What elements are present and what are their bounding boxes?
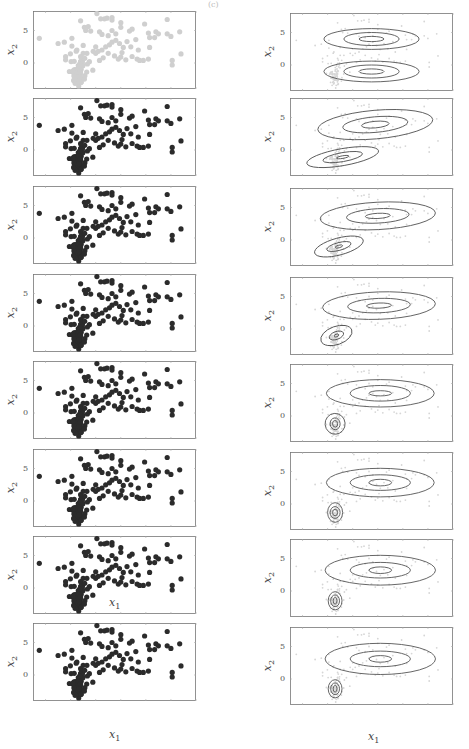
- y-tick-label: 0: [23, 408, 28, 417]
- contour-plot-8: [290, 627, 453, 705]
- scatter-points: [37, 98, 184, 176]
- y-axis-label: x2: [4, 307, 19, 318]
- y-tick-label: 0: [23, 670, 28, 679]
- contour-panel-2: 50x2: [290, 98, 453, 176]
- responsibility-panel-2: 50x2: [33, 98, 196, 176]
- gaussian-contour-1: [326, 380, 434, 407]
- y-axis-label: x2: [261, 46, 276, 57]
- y-axis-label: x2: [261, 131, 276, 142]
- gaussian-contour-1: [324, 29, 419, 50]
- y-tick-label: 5: [23, 376, 28, 385]
- faint-points: [295, 279, 439, 353]
- y-tick-label: 0: [23, 58, 28, 67]
- scatter-points: [37, 361, 184, 439]
- y-tick-label: 0: [280, 411, 285, 420]
- axes-frame: [291, 14, 453, 91]
- y-tick-label: 5: [23, 201, 28, 210]
- axes-frame: [34, 624, 196, 701]
- y-tick-label: 5: [280, 467, 285, 476]
- axes-frame: [291, 365, 453, 442]
- contour-plot-6: [290, 452, 453, 530]
- responsibility-panel-4: 50x2: [33, 274, 196, 352]
- scatter-points: [37, 11, 184, 89]
- y-tick-label: 5: [280, 379, 285, 388]
- contour-panel-1: 50x2: [290, 13, 453, 91]
- axes-frame: [34, 450, 196, 527]
- responsibility-plot-1: [33, 11, 196, 89]
- gaussian-contour-1: [325, 555, 435, 585]
- y-axis-label: x2: [261, 572, 276, 583]
- y-tick-label: 5: [280, 203, 285, 212]
- responsibility-plot-3: [33, 186, 196, 264]
- y-axis-label: x2: [4, 131, 19, 142]
- y-tick-label: 0: [280, 674, 285, 683]
- axes-frame: [34, 187, 196, 264]
- y-tick-label: 5: [23, 551, 28, 560]
- contour-plot-3: [290, 188, 453, 266]
- faint-points: [295, 454, 439, 528]
- contour-plot-1: [290, 13, 453, 91]
- axes-frame: [291, 278, 453, 355]
- responsibility-panel-3: 50x2: [33, 186, 196, 264]
- gaussian-contour-2: [305, 142, 380, 171]
- responsibility-panel-8: 50x2: [33, 623, 196, 701]
- contour-panel-3: 50x2: [290, 188, 453, 266]
- y-tick-label: 5: [280, 113, 285, 122]
- contour-plot-5: [290, 364, 453, 442]
- contour-panel-7: 50x2: [290, 539, 453, 617]
- x-axis-label: x1: [368, 730, 379, 745]
- responsibility-plot-2: [33, 98, 196, 176]
- y-axis-label: x2: [4, 394, 19, 405]
- gaussian-contour-1: [326, 468, 434, 497]
- y-axis-label: x2: [4, 44, 19, 55]
- responsibility-plot-4: [33, 274, 196, 352]
- gaussian-contour-1: [325, 643, 435, 674]
- x-axis-label: x1: [109, 596, 120, 611]
- contour-panel-5: 50x2: [290, 364, 453, 442]
- contour-panel-4: 50x2: [290, 277, 453, 355]
- gaussian-contour-1: [322, 290, 436, 321]
- y-axis-label: x2: [261, 221, 276, 232]
- x-axis-label: x1: [109, 728, 120, 743]
- y-tick-label: 0: [280, 324, 285, 333]
- y-tick-label: 0: [23, 496, 28, 505]
- y-axis-label: x2: [261, 660, 276, 671]
- faint-points: [295, 190, 439, 264]
- responsibility-plot-5: [33, 361, 196, 439]
- y-tick-label: 0: [280, 145, 285, 154]
- y-tick-label: 0: [280, 499, 285, 508]
- y-tick-label: 5: [280, 28, 285, 37]
- y-tick-label: 5: [23, 464, 28, 473]
- axes-frame: [34, 99, 196, 176]
- responsibility-panel-5: 50x2: [33, 361, 196, 439]
- y-axis-label: x2: [261, 397, 276, 408]
- figure-top-label: (c): [208, 0, 219, 9]
- axes-frame: [291, 453, 453, 530]
- responsibility-panel-6: 50x2: [33, 449, 196, 527]
- y-tick-label: 0: [280, 235, 285, 244]
- responsibility-plot-6: [33, 449, 196, 527]
- axes-frame: [34, 12, 196, 89]
- y-axis-label: x2: [4, 219, 19, 230]
- y-tick-label: 5: [23, 113, 28, 122]
- y-tick-label: 0: [280, 60, 285, 69]
- y-tick-label: 5: [280, 642, 285, 651]
- contour-plot-7: [290, 539, 453, 617]
- y-axis-label: x2: [4, 482, 19, 493]
- faint-points: [295, 541, 439, 615]
- y-tick-label: 5: [280, 292, 285, 301]
- axes-frame: [34, 362, 196, 439]
- y-tick-label: 5: [23, 26, 28, 35]
- y-tick-label: 0: [280, 586, 285, 595]
- responsibility-plot-8: [33, 623, 196, 701]
- y-tick-label: 0: [23, 583, 28, 592]
- y-axis-label: x2: [261, 310, 276, 321]
- scatter-points: [37, 274, 184, 352]
- y-tick-label: 5: [280, 554, 285, 563]
- scatter-points: [37, 623, 184, 701]
- y-tick-label: 5: [23, 638, 28, 647]
- responsibility-panel-1: 50x2: [33, 11, 196, 89]
- contour-panel-6: 50x2: [290, 452, 453, 530]
- contour-plot-4: [290, 277, 453, 355]
- scatter-points: [37, 186, 184, 264]
